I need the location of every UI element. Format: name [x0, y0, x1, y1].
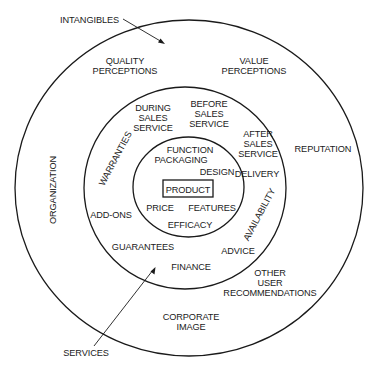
corporate-image-label: CORPORATE IMAGE	[163, 312, 220, 332]
svg-text:PERCEPTIONS: PERCEPTIONS	[222, 66, 287, 76]
efficacy-label: EFFICACY	[168, 220, 213, 230]
product-concept-diagram: PRODUCT FUNCTION PACKAGING DESIGN PRICE …	[0, 0, 372, 370]
svg-text:IMAGE: IMAGE	[176, 322, 205, 332]
finance-label: FINANCE	[171, 262, 211, 272]
svg-text:VALUE: VALUE	[240, 56, 269, 66]
availability-label: AVAILABILITY	[241, 187, 277, 243]
intangibles-callout-label: INTANGIBLES	[60, 15, 119, 25]
svg-text:SERVICE: SERVICE	[238, 149, 277, 159]
svg-text:SALES: SALES	[243, 139, 272, 149]
svg-text:OTHER: OTHER	[254, 268, 286, 278]
svg-text:SERVICE: SERVICE	[189, 119, 228, 129]
services-arrow-icon	[94, 267, 156, 346]
svg-text:CORPORATE: CORPORATE	[163, 312, 220, 322]
svg-text:AFTER: AFTER	[243, 129, 273, 139]
before-sales-service-label: BEFORE SALES SERVICE	[189, 99, 228, 129]
product-label: PRODUCT	[166, 185, 211, 195]
during-sales-service-label: DURING SALES SERVICE	[133, 103, 172, 133]
price-label: PRICE	[146, 203, 174, 213]
svg-text:QUALITY: QUALITY	[106, 56, 145, 66]
organization-label: ORGANIZATION	[48, 156, 58, 224]
svg-text:SERVICE: SERVICE	[133, 123, 172, 133]
guarantees-label: GUARANTEES	[112, 242, 174, 252]
quality-perceptions-label: QUALITY PERCEPTIONS	[93, 56, 158, 76]
delivery-label: DELIVERY	[235, 169, 279, 179]
svg-text:BEFORE: BEFORE	[190, 99, 227, 109]
design-label: DESIGN	[200, 167, 235, 177]
add-ons-label: ADD-ONS	[90, 210, 132, 220]
svg-text:SALES: SALES	[138, 113, 167, 123]
svg-text:DURING: DURING	[135, 103, 171, 113]
after-sales-service-label: AFTER SALES SERVICE	[238, 129, 277, 159]
warranties-label: WARRANTIES	[97, 130, 134, 188]
function-label: FUNCTION	[167, 145, 214, 155]
reputation-label: REPUTATION	[295, 144, 352, 154]
advice-label: ADVICE	[221, 246, 255, 256]
value-perceptions-label: VALUE PERCEPTIONS	[222, 56, 287, 76]
svg-text:USER: USER	[257, 278, 283, 288]
other-user-recommendations-label: OTHER USER RECOMMENDATIONS	[223, 268, 316, 298]
services-callout-label: SERVICES	[63, 348, 109, 358]
svg-text:SALES: SALES	[194, 109, 223, 119]
diagram-canvas: PRODUCT FUNCTION PACKAGING DESIGN PRICE …	[0, 0, 372, 370]
packaging-label: PACKAGING	[154, 155, 207, 165]
svg-text:RECOMMENDATIONS: RECOMMENDATIONS	[223, 288, 316, 298]
svg-text:PERCEPTIONS: PERCEPTIONS	[93, 66, 158, 76]
features-label: FEATURES	[188, 203, 236, 213]
